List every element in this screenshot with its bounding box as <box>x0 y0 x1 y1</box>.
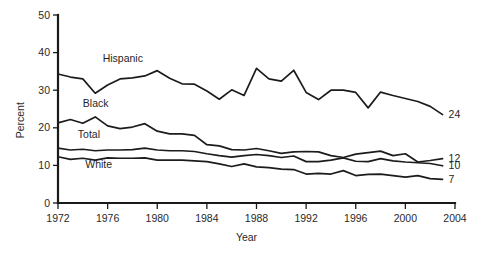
total-inline-label: Total <box>78 128 100 140</box>
x-tick-label-1992: 1992 <box>294 212 318 224</box>
x-tick-label-1976: 1976 <box>96 212 120 224</box>
x-tick-label-1988: 1988 <box>245 212 269 224</box>
hispanic-inline-label: Hispanic <box>103 52 143 64</box>
end-label-white: 7 <box>449 173 455 185</box>
y-tick-label-40: 40 <box>38 46 50 58</box>
x-tick-label-2000: 2000 <box>394 212 418 224</box>
end-label-total: 10 <box>449 159 461 171</box>
black-inline-label: Black <box>83 97 109 109</box>
x-tick-label-1984: 1984 <box>195 212 219 224</box>
white-inline-label: White <box>85 158 112 170</box>
y-tick-label-20: 20 <box>38 121 50 133</box>
y-tick-label-50: 50 <box>38 9 50 21</box>
dropout-rate-line-chart: 0102030405019721976198019841988199219962… <box>0 0 491 262</box>
y-tick-label-10: 10 <box>38 159 50 171</box>
y-axis-title: Percent <box>14 102 26 138</box>
end-label-hispanic: 24 <box>449 108 461 120</box>
chart-page: 0102030405019721976198019841988199219962… <box>0 0 491 262</box>
x-tick-label-2004: 2004 <box>443 212 467 224</box>
y-tick-label-0: 0 <box>44 197 50 209</box>
y-tick-label-30: 30 <box>38 84 50 96</box>
x-tick-label-1972: 1972 <box>46 212 70 224</box>
x-tick-label-1980: 1980 <box>146 212 170 224</box>
x-axis-title: Year <box>236 231 258 243</box>
x-tick-label-1996: 1996 <box>344 212 368 224</box>
